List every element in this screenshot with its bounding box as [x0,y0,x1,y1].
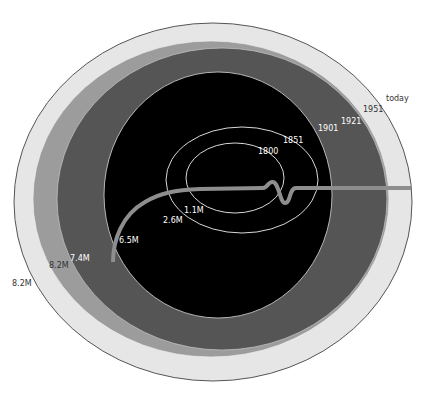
label-pop-1851: 2.6M [163,216,183,225]
label-year-1921: 1921 [341,117,361,126]
label-pop-1921: 7.4M [70,254,90,263]
label-pop-1800: 1.1M [184,206,204,215]
label-year-1901: 1901 [318,124,338,133]
city-growth-diagram: 1800 1851 1901 1921 1951 today 1.1M 2.6M… [0,0,427,395]
label-pop-today: 8.2M [12,279,32,288]
label-year-1951: 1951 [363,105,383,114]
label-pop-1951: 8.2M [49,261,69,270]
label-year-1851: 1851 [283,136,303,145]
label-year-today: today [386,94,409,103]
ring-1901 [104,72,332,318]
label-year-1800: 1800 [258,147,278,156]
label-pop-1901: 6.5M [119,236,139,245]
